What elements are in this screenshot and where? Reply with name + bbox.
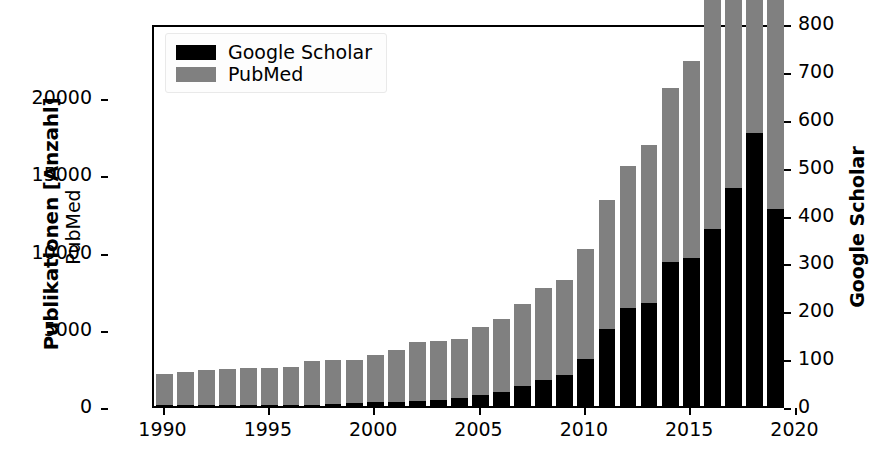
bar-segment-google-scholar (725, 188, 742, 406)
bar-segment-pubmed (346, 360, 363, 403)
bar-1993 (219, 369, 236, 406)
y-tick-label: 5000 (44, 318, 92, 340)
bar-segment-pubmed (367, 355, 384, 402)
bar-2009 (556, 280, 573, 406)
x-tick-label: 2005 (439, 418, 519, 440)
y-tick-mark (101, 254, 108, 256)
legend-swatch-black (176, 45, 216, 60)
bar-segment-pubmed (746, 0, 763, 133)
y-tick-label: 20000 (32, 86, 92, 108)
bar-segment-google-scholar (535, 380, 552, 406)
chart-figure: Publikationen [Anzahl] PubMed Google Sch… (0, 0, 892, 452)
y-tick-label: 15000 (32, 163, 92, 185)
y-tick-right-mark (784, 312, 791, 314)
bar-segment-google-scholar (451, 398, 468, 406)
bar-2007 (514, 304, 531, 406)
y-tick-right-label: 200 (798, 299, 834, 321)
bar-segment-google-scholar (767, 209, 784, 406)
y-tick-label: 10000 (32, 241, 92, 263)
bar-segment-pubmed (535, 288, 552, 380)
bar-segment-google-scholar (430, 400, 447, 406)
y-tick-right-mark (784, 217, 791, 219)
bar-1994 (240, 368, 257, 406)
bar-segment-pubmed (683, 61, 700, 257)
bar-segment-pubmed (388, 350, 405, 402)
bar-1995 (261, 368, 278, 407)
bar-1990 (156, 374, 173, 406)
bar-2008 (535, 288, 552, 406)
legend-item-label: PubMed (228, 63, 303, 85)
bar-segment-google-scholar (346, 403, 363, 406)
y-tick-label: 0 (80, 395, 92, 417)
bar-segment-pubmed (177, 372, 194, 405)
bar-segment-google-scholar (620, 308, 637, 406)
y-tick-right-label: 300 (798, 251, 834, 273)
bar-segment-pubmed (261, 368, 278, 405)
y-tick-right-label: 100 (798, 347, 834, 369)
y-tick-mark (101, 99, 108, 101)
y-tick-right-mark (784, 360, 791, 362)
bar-segment-pubmed (577, 249, 594, 359)
y-axis-title-group: Publikationen [Anzahl] PubMed (14, 0, 84, 452)
bar-segment-pubmed (556, 280, 573, 375)
x-tick-mark (268, 408, 270, 415)
y-tick-right-label: 400 (798, 204, 834, 226)
bar-segment-pubmed (219, 369, 236, 405)
y-tick-right-mark (784, 264, 791, 266)
bar-segment-google-scholar (283, 405, 300, 406)
chart-legend: Google ScholarPubMed (165, 33, 387, 93)
bar-segment-google-scholar (177, 405, 194, 406)
y-tick-mark (101, 408, 108, 410)
y-tick-right-mark (784, 73, 791, 75)
bar-segment-pubmed (514, 304, 531, 386)
x-tick-label: 2020 (755, 418, 835, 440)
bar-segment-google-scholar (409, 401, 426, 406)
y-tick-mark (101, 176, 108, 178)
legend-swatch-gray (176, 67, 216, 82)
bar-2002 (409, 342, 426, 406)
bar-segment-google-scholar (367, 402, 384, 406)
y-tick-right-mark (784, 25, 791, 27)
bar-segment-google-scholar (514, 386, 531, 406)
bar-2006 (493, 319, 510, 406)
y-tick-mark (101, 331, 108, 333)
bar-2001 (388, 350, 405, 406)
y-axis-right-title: Google Scholar (846, 72, 868, 382)
bar-2003 (430, 341, 447, 406)
x-tick-mark (373, 408, 375, 415)
bar-2017 (725, 0, 742, 406)
bar-segment-pubmed (704, 0, 721, 229)
bar-segment-pubmed (641, 145, 658, 303)
bar-segment-pubmed (662, 88, 679, 263)
x-tick-mark (479, 408, 481, 415)
bar-2004 (451, 339, 468, 406)
bar-2015 (683, 61, 700, 406)
bar-segment-google-scholar (261, 405, 278, 406)
legend-item-pubmed: PubMed (176, 63, 372, 85)
bar-segment-pubmed (240, 368, 257, 405)
bar-1997 (304, 361, 321, 406)
y-tick-right-label: 500 (798, 156, 834, 178)
x-tick-label: 1990 (123, 418, 203, 440)
y-tick-right-mark (784, 121, 791, 123)
bar-segment-pubmed (620, 166, 637, 308)
bar-segment-pubmed (325, 360, 342, 404)
bar-2016 (704, 0, 721, 406)
bar-1992 (198, 370, 215, 406)
bar-segment-google-scholar (683, 258, 700, 406)
bar-segment-google-scholar (746, 133, 763, 406)
bar-2018 (746, 0, 763, 406)
y-tick-right-mark (784, 408, 791, 410)
y-tick-right-label: 800 (798, 12, 834, 34)
bar-2013 (641, 145, 658, 406)
bar-segment-google-scholar (240, 405, 257, 406)
y-tick-right-label: 700 (798, 60, 834, 82)
bar-1991 (177, 372, 194, 406)
x-tick-label: 2015 (649, 418, 729, 440)
bar-segment-google-scholar (156, 405, 173, 406)
bar-1999 (346, 360, 363, 406)
bar-segment-pubmed (283, 367, 300, 405)
bar-2011 (599, 200, 616, 406)
y-tick-right-label: 600 (798, 108, 834, 130)
x-tick-label: 2000 (333, 418, 413, 440)
